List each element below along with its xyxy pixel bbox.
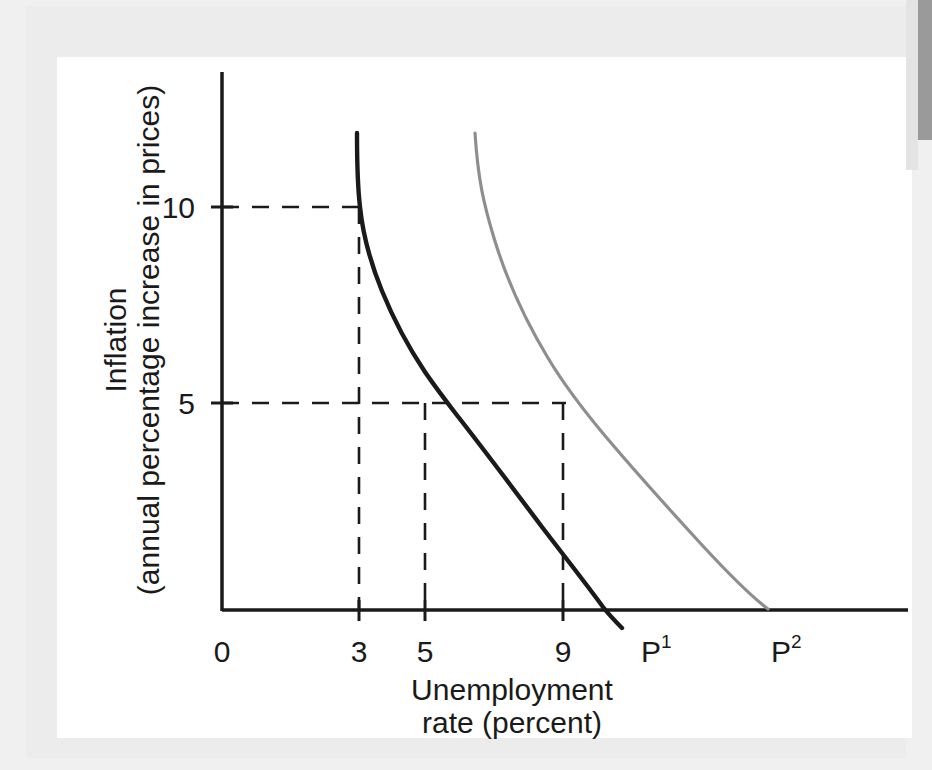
x-tick-label-9: 9 <box>555 635 572 668</box>
curve-label-p1: P <box>641 635 661 668</box>
phillips-curve-p2 <box>475 133 768 609</box>
phillips-curve-chart: 10 5 0 3 5 9 P 1 P 2 Unemployment rate (… <box>0 0 932 770</box>
y-axis-title-line1: Inflation <box>99 287 132 392</box>
y-tick-label-10: 10 <box>162 191 195 224</box>
x-tick-label-5: 5 <box>417 635 434 668</box>
y-tick-label-5: 5 <box>178 387 195 420</box>
x-tick-label-3: 3 <box>351 635 368 668</box>
x-tick-label-0: 0 <box>214 635 231 668</box>
phillips-curve-p1 <box>357 133 622 628</box>
curve-label-p2-superscript: 2 <box>791 631 802 652</box>
x-axis-title-line2: rate (percent) <box>422 706 602 739</box>
figure-page: 10 5 0 3 5 9 P 1 P 2 Unemployment rate (… <box>0 0 932 770</box>
x-axis-title-line1: Unemployment <box>411 673 613 706</box>
y-axis-title-line2: (annual percentage increase in prices) <box>132 85 165 595</box>
curve-label-p2: P <box>771 635 791 668</box>
curve-label-p1-superscript: 1 <box>661 631 672 652</box>
